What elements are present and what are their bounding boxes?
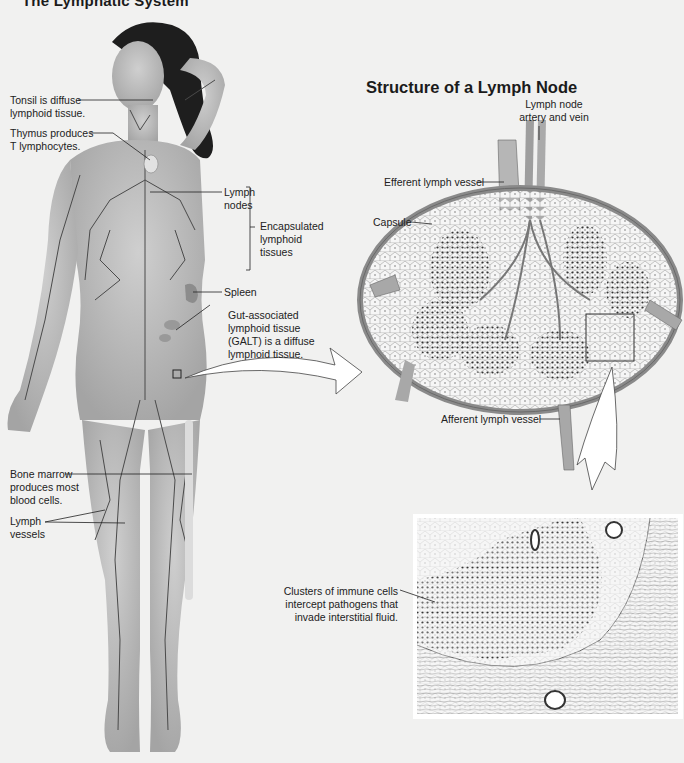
label-tonsil: Tonsil is diffuse lymphoid tissue.: [10, 94, 85, 120]
node-section-title: Structure of a Lymph Node: [366, 78, 577, 97]
label-galt: Gut-associated lymphoid tissue (GALT) is…: [228, 309, 315, 361]
label-efferent-vessel: Efferent lymph vessel: [384, 176, 484, 189]
label-immune-clusters: Clusters of immune cells intercept patho…: [270, 585, 398, 624]
figure-title: The Lymphatic System: [22, 0, 189, 9]
label-artery-vein: Lymph node artery and vein: [508, 98, 600, 124]
label-spleen: Spleen: [224, 286, 257, 299]
label-lymph-nodes: Lymph nodes: [224, 186, 255, 212]
label-thymus: Thymus produces T lymphocytes.: [10, 127, 93, 153]
label-capsule: Capsule: [373, 216, 412, 229]
label-encapsulated-tissues: Encapsulated lymphoid tissues: [260, 220, 324, 259]
label-bone-marrow: Bone marrow produces most blood cells.: [10, 468, 79, 507]
magnified-inset: [413, 514, 683, 719]
label-lymph-vessels: Lymph vessels: [10, 515, 45, 541]
label-afferent-vessel: Afferent lymph vessel: [441, 413, 541, 426]
